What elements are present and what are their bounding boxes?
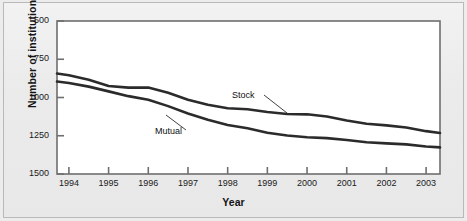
series-label-mutual: Mutual [155, 126, 182, 136]
x-tick-label-1999: 1999 [247, 178, 287, 188]
y-tick-label-500: 1500 [19, 168, 49, 178]
y-tick-label-1500: 500 [19, 15, 49, 25]
x-tick-label-1995: 1995 [89, 178, 129, 188]
y-tick-label-750: 1250 [19, 130, 49, 140]
x-tick-label-2003: 2003 [406, 178, 446, 188]
x-tick-label-2001: 2001 [327, 178, 367, 188]
y-tick-label-1250: 750 [19, 53, 49, 63]
chart-figure: Number of institutions Year 150012501000… [0, 0, 467, 221]
series-label-stock: Stock [232, 90, 255, 100]
x-tick-label-1997: 1997 [168, 178, 208, 188]
x-tick-label-1994: 1994 [49, 178, 89, 188]
x-tick-label-2002: 2002 [366, 178, 406, 188]
y-tick-label-1000: 1000 [19, 92, 49, 102]
x-axis-title: Year [0, 196, 467, 208]
x-tick-label-1996: 1996 [128, 178, 168, 188]
x-tick-label-1998: 1998 [208, 178, 248, 188]
x-tick-label-2000: 2000 [287, 178, 327, 188]
